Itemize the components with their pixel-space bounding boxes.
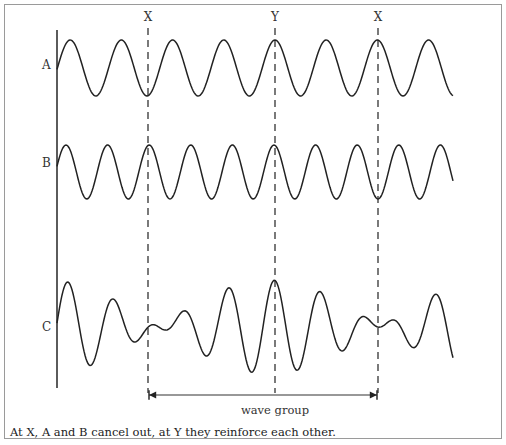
marker-y-label: Y bbox=[271, 11, 279, 23]
wave-a-label: A bbox=[42, 59, 51, 71]
wave-a-path bbox=[57, 40, 453, 96]
marker-x-right-label: X bbox=[374, 11, 383, 23]
wave-c-path bbox=[57, 280, 453, 372]
wave-group-label: wave group bbox=[241, 403, 309, 417]
wave-c-label: C bbox=[42, 321, 51, 333]
wave-b-path bbox=[57, 145, 453, 199]
marker-x-left-label: X bbox=[144, 11, 153, 23]
figure-caption: At X, A and B cancel out, at Y they rein… bbox=[10, 425, 336, 439]
wave-interference-diagram bbox=[0, 0, 506, 445]
wave-b-label: B bbox=[42, 157, 51, 169]
